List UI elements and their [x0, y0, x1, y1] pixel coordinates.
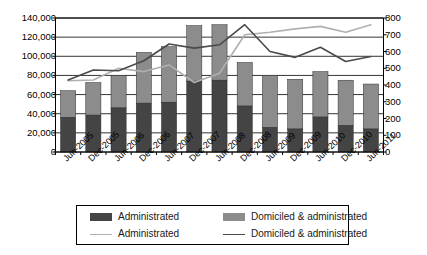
y-axis-right-tick-label: 800	[385, 13, 401, 23]
legend-row-bars: Administrated Domiciled & administrated	[77, 209, 348, 225]
legend-item-line-administrated: Administrated	[77, 229, 223, 239]
y-axis-left-tick-label: 80,000	[27, 70, 56, 80]
legend-swatch-bar-dark-icon	[90, 213, 112, 221]
chart-legend: Administrated Domiciled & administrated …	[76, 205, 349, 245]
y-axis-left-tick-label: 20,000	[27, 128, 56, 138]
y-axis-left-tick-label: 100,000	[22, 51, 56, 61]
y-axis-left-tick-label: 120,000	[22, 32, 56, 42]
y-axis-left-tick-label: 60,000	[27, 90, 56, 100]
legend-label-line-domiciled: Domiciled & administrated	[251, 229, 367, 239]
y-axis-right-tick-label: 300	[385, 97, 401, 107]
legend-label-bar-administrated: Administrated	[118, 212, 179, 222]
y-axis-right-tick-label: 400	[385, 80, 401, 90]
legend-item-bar-administrated: Administrated	[77, 212, 223, 222]
legend-label-line-administrated: Administrated	[118, 229, 179, 239]
legend-row-lines: Administrated Domiciled & administrated	[77, 226, 348, 242]
legend-swatch-line-dark-icon	[223, 234, 245, 235]
y-axis-left-tick-label: 140,000	[22, 13, 56, 23]
y-axis-left-tick-label: 40,000	[27, 109, 56, 119]
y-axis-right-tick-label: 500	[385, 63, 401, 73]
legend-swatch-bar-gray-icon	[223, 213, 245, 221]
legend-item-line-domiciled: Domiciled & administrated	[223, 229, 348, 239]
legend-label-bar-domiciled: Domiciled & administrated	[251, 212, 367, 222]
y-axis-right-tick-label: 200	[385, 114, 401, 124]
legend-item-bar-domiciled: Domiciled & administrated	[223, 212, 348, 222]
y-axis-left-tick-label: 0	[51, 147, 56, 157]
y-axis-right-tick-label: 700	[385, 30, 401, 40]
y-axis-right-tick-label: 600	[385, 47, 401, 57]
legend-swatch-line-light-icon	[90, 234, 112, 235]
chart-container: 020,00040,00060,00080,000100,000120,0001…	[0, 0, 427, 255]
